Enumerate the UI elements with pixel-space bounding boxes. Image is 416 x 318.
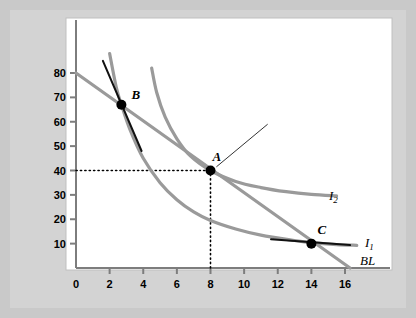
figure-container: Quantity of restaurant meals Quantity of…: [0, 0, 416, 318]
x-tick-label: 8: [207, 278, 213, 290]
point-label-C: C: [317, 222, 326, 237]
svg-text:BL: BL: [360, 253, 375, 268]
y-tick-label: 80: [54, 67, 66, 79]
point-marker-C[interactable]: [306, 239, 316, 249]
x-tick-label: 4: [140, 278, 147, 290]
point-label-A: A: [212, 149, 222, 164]
y-tick-label: 20: [54, 213, 66, 225]
y-tick-label: 50: [54, 140, 66, 152]
series-label-BL: BL: [360, 253, 375, 268]
point-marker-B[interactable]: [116, 100, 126, 110]
x-tick-label: 16: [339, 278, 351, 290]
y-tick-label: 40: [54, 165, 66, 177]
x-tick-label: 14: [305, 278, 318, 290]
x-tick-label: 0: [73, 278, 79, 290]
x-tick-label: 6: [174, 278, 180, 290]
x-tick-label: 10: [238, 278, 250, 290]
point-label-B: B: [130, 87, 140, 102]
indifference-curve-chart: 10203040506070800246810121416I2I1BLABC: [0, 0, 416, 318]
plot-panel: [66, 18, 392, 270]
y-tick-label: 70: [54, 91, 66, 103]
y-tick-label: 60: [54, 116, 66, 128]
y-tick-label: 10: [54, 238, 66, 250]
x-tick-label: 2: [107, 278, 113, 290]
y-tick-label: 30: [54, 189, 66, 201]
point-marker-A[interactable]: [206, 166, 216, 176]
x-tick-label: 12: [272, 278, 284, 290]
